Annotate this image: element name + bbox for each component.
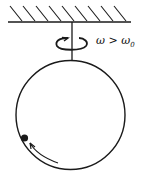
ceiling-hatch [8, 6, 131, 22]
motion-arrow-icon [30, 143, 58, 163]
omega-subscript: 0 [130, 41, 134, 49]
omega-text: ω > ω [96, 34, 130, 47]
bead [21, 134, 28, 141]
diagram-canvas [0, 0, 143, 179]
angular-velocity-label: ω > ω0 [96, 34, 135, 49]
circular-hoop [16, 61, 125, 170]
